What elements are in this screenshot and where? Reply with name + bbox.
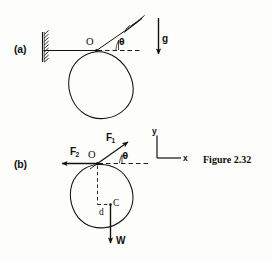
axis-label-y: y bbox=[152, 127, 157, 136]
figure-drawing bbox=[0, 0, 272, 261]
panel-tag-b: (b) bbox=[14, 159, 27, 170]
axis-label-x: x bbox=[183, 154, 188, 163]
angle-label-b: θ bbox=[123, 153, 129, 161]
rigid-body-outline-b bbox=[70, 164, 133, 227]
panel-tag-a: (a) bbox=[14, 44, 26, 55]
centroid-label: C bbox=[113, 199, 119, 209]
reference-axes-b bbox=[157, 136, 181, 159]
gravity-label-a: g bbox=[162, 34, 168, 44]
force-f1-label: F1 bbox=[106, 133, 116, 143]
figure-2-32: (a) O θ g (b) O F2 F1 θ y x C d W Figure… bbox=[0, 0, 272, 261]
force-f2-label: F2 bbox=[70, 147, 80, 157]
force-f2-subscript: 2 bbox=[76, 151, 80, 158]
pivot-label-b: O bbox=[88, 150, 96, 161]
force-f1-subscript: 1 bbox=[112, 137, 116, 144]
hatched-support-icon-a bbox=[124, 15, 145, 32]
pivot-label-a: O bbox=[86, 37, 94, 48]
distance-label: d bbox=[99, 208, 104, 218]
angle-label-a: θ bbox=[119, 39, 125, 47]
rigid-body-outline-a bbox=[69, 52, 134, 119]
figure-caption: Figure 2.32 bbox=[203, 155, 251, 165]
hatched-wall-icon-a bbox=[43, 31, 49, 63]
weight-label: W bbox=[116, 236, 125, 246]
